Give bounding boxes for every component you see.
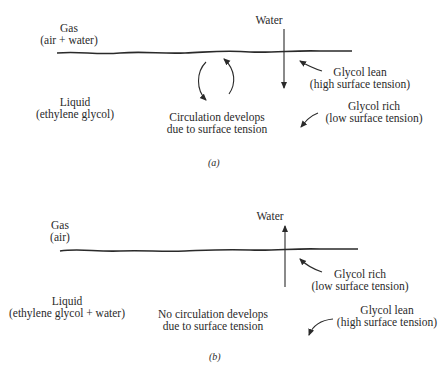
circulation-note-a: Circulation develops due to surface tens… <box>158 111 276 135</box>
near-surface-line2: (high surface tension) <box>300 78 420 90</box>
circulation-line2: due to surface tension <box>148 320 278 332</box>
near-surface-label-b: Glycol rich (low surface tension) <box>300 268 420 292</box>
water-label-a: Water <box>247 14 291 26</box>
bulk-line1: Glycol rich <box>315 100 433 112</box>
circulation-line2: due to surface tension <box>158 123 276 135</box>
circulation-note-b: No circulation develops due to surface t… <box>148 308 278 332</box>
gas-title: Gas <box>38 219 82 231</box>
gas-subtitle: (air) <box>38 231 82 243</box>
liquid-title: Liquid <box>18 96 132 108</box>
circulation-arrow-left-icon <box>199 62 207 100</box>
liquid-subtitle: (ethylene glycol) <box>18 108 132 120</box>
caption-a: (a) <box>208 157 220 168</box>
bulk-line2: (high surface tension) <box>328 316 446 328</box>
gas-label-b: Gas (air) <box>38 219 82 243</box>
gas-subtitle: (air + water) <box>24 34 114 46</box>
near-surface-label-a: Glycol lean (high surface tension) <box>300 66 420 90</box>
bulk-line2: (low surface tension) <box>315 112 433 124</box>
bulk-label-b: Glycol lean (high surface tension) <box>328 304 446 328</box>
bulk-label-a: Glycol rich (low surface tension) <box>315 100 433 124</box>
near-surface-line1: Glycol rich <box>300 268 420 280</box>
near-surface-line2: (low surface tension) <box>300 280 420 292</box>
water-label-b: Water <box>248 210 292 222</box>
bulk-line1: Glycol lean <box>328 304 446 316</box>
liquid-label-b: Liquid (ethylene glycol + water) <box>4 295 130 319</box>
gas-label-a: Gas (air + water) <box>24 22 114 46</box>
circulation-arrow-right-icon <box>224 59 234 94</box>
liquid-label-a: Liquid (ethylene glycol) <box>18 96 132 120</box>
gas-title: Gas <box>24 22 114 34</box>
liquid-title: Liquid <box>4 295 130 307</box>
caption-b: (b) <box>209 351 221 362</box>
gas-liquid-interface-b <box>60 249 358 251</box>
near-surface-line1: Glycol lean <box>300 66 420 78</box>
circulation-line1: No circulation develops <box>148 308 278 320</box>
circulation-line1: Circulation develops <box>158 111 276 123</box>
gas-liquid-interface-a <box>57 51 352 54</box>
liquid-subtitle: (ethylene glycol + water) <box>4 307 130 319</box>
